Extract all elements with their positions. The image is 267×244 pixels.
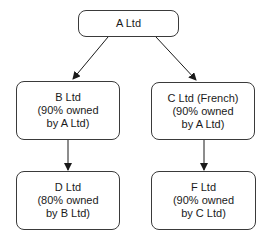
node-f-ltd: F Ltd (90% owned by C Ltd) — [151, 171, 256, 230]
edge-a-to-b — [73, 37, 108, 79]
node-b-ltd: B Ltd (90% owned by A Ltd) — [16, 81, 120, 140]
node-f-line-1: F Ltd — [191, 181, 216, 194]
node-c-line-3: by A Ltd) — [182, 118, 225, 131]
node-d-line-3: by B Ltd) — [46, 207, 90, 220]
node-f-line-3: by C Ltd) — [181, 207, 226, 220]
node-c-ltd: C Ltd (French) (90% owned by A Ltd) — [151, 82, 255, 140]
node-d-line-1: D Ltd — [55, 181, 81, 194]
node-f-line-2: (90% owned — [173, 194, 234, 207]
edge-a-to-c — [156, 37, 196, 80]
node-a-line-1: A Ltd — [116, 17, 141, 30]
node-c-line-2: (90% owned — [172, 105, 233, 118]
node-c-line-1: C Ltd (French) — [168, 92, 239, 105]
node-d-ltd: D Ltd (80% owned by B Ltd) — [16, 171, 120, 230]
node-a-ltd: A Ltd — [78, 10, 179, 37]
node-b-line-2: (90% owned — [37, 104, 98, 117]
node-d-line-2: (80% owned — [37, 194, 98, 207]
node-b-line-1: B Ltd — [55, 91, 81, 104]
node-b-line-3: by A Ltd) — [47, 117, 90, 130]
